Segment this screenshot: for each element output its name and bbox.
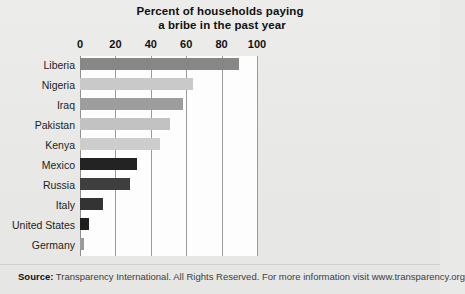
bar-row: Nigeria xyxy=(0,76,440,96)
x-tick-100: 100 xyxy=(248,38,266,50)
x-tick-60: 60 xyxy=(180,38,192,50)
x-tick-0: 0 xyxy=(77,38,83,50)
bar-russia xyxy=(80,178,130,190)
chart-title-line-1: Percent of households paying xyxy=(0,4,440,18)
x-axis-tick-labels: 020406080100 xyxy=(80,38,257,54)
x-tick-20: 20 xyxy=(109,38,121,50)
bar-row: Germany xyxy=(0,236,440,256)
category-label-iraq: Iraq xyxy=(57,98,75,112)
bar-row: Iraq xyxy=(0,96,440,116)
footer-divider xyxy=(0,264,440,265)
category-label-nigeria: Nigeria xyxy=(42,78,75,92)
bar-row: Liberia xyxy=(0,56,440,76)
bar-row: Italy xyxy=(0,196,440,216)
chart-title-line-2: a bribe in the past year xyxy=(0,18,440,32)
category-label-russia: Russia xyxy=(43,178,75,192)
bar-row: Kenya xyxy=(0,136,440,156)
bar-row: United States xyxy=(0,216,440,236)
category-label-united-states: United States xyxy=(12,218,75,232)
bar-row: Mexico xyxy=(0,156,440,176)
chart-title: Percent of households paying a bribe in … xyxy=(0,4,440,32)
source-text: Transparency International. All Rights R… xyxy=(53,271,465,282)
source-label: Source: xyxy=(18,271,53,282)
bar-germany xyxy=(80,238,84,250)
category-label-germany: Germany xyxy=(32,238,75,252)
bar-row: Russia xyxy=(0,176,440,196)
bar-united-states xyxy=(80,218,89,230)
bar-kenya xyxy=(80,138,160,150)
bar-iraq xyxy=(80,98,183,110)
bar-pakistan xyxy=(80,118,170,130)
bar-nigeria xyxy=(80,78,193,90)
category-label-italy: Italy xyxy=(56,198,75,212)
x-tick-40: 40 xyxy=(145,38,157,50)
source-note: Source: Transparency International. All … xyxy=(18,271,465,283)
bar-italy xyxy=(80,198,103,210)
x-tick-80: 80 xyxy=(215,38,227,50)
category-label-liberia: Liberia xyxy=(43,58,75,72)
bar-liberia xyxy=(80,58,239,70)
bar-rows: LiberiaNigeriaIraqPakistanKenyaMexicoRus… xyxy=(0,56,440,256)
bar-row: Pakistan xyxy=(0,116,440,136)
category-label-kenya: Kenya xyxy=(45,138,75,152)
category-label-pakistan: Pakistan xyxy=(35,118,75,132)
bar-mexico xyxy=(80,158,137,170)
category-label-mexico: Mexico xyxy=(42,158,75,172)
